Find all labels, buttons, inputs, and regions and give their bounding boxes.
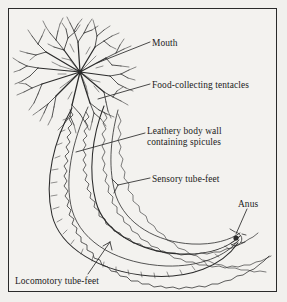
leader-line-anus	[236, 209, 247, 234]
sea-cucumber-illustration	[0, 0, 287, 302]
leader-line-body-wall	[76, 133, 145, 152]
label-sensory-tube-feet: Sensory tube-feet	[152, 174, 220, 185]
leader-line-locomotory	[88, 242, 110, 274]
label-food-collecting-tentacles: Food-collecting tentacles	[152, 80, 249, 91]
label-leathery-body-wall: Leathery body wallcontaining spicules	[147, 126, 267, 147]
leader-line-mouth	[97, 42, 150, 63]
leader-line-sensory	[118, 178, 150, 185]
label-body-wall-line2: containing spicules	[147, 137, 221, 147]
label-mouth: Mouth	[152, 38, 178, 49]
label-anus: Anus	[238, 199, 258, 210]
leader-line-tentacles	[98, 84, 150, 99]
label-body-wall-line1: Leathery body wall	[147, 126, 222, 136]
leader-lines	[76, 42, 247, 274]
figure-container: Mouth Food-collecting tentacles Leathery…	[0, 0, 287, 302]
tentacle-crown	[13, 17, 136, 133]
label-locomotory-tube-feet: Locomotory tube-feet	[15, 276, 99, 287]
